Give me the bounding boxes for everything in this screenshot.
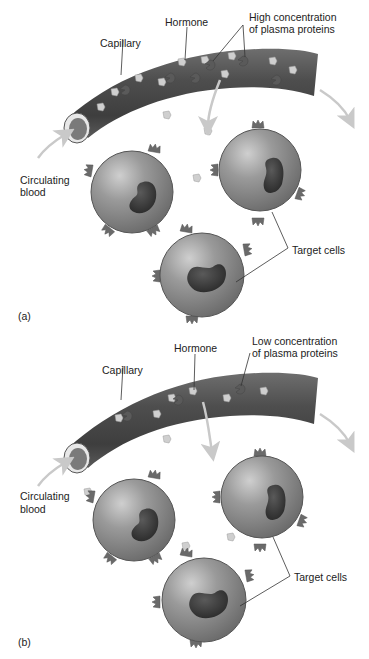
capillary-tube: [68, 373, 318, 468]
panel-b: [38, 353, 350, 648]
panel-label-b: (b): [18, 636, 31, 648]
capillary-label: Capillary: [102, 364, 143, 376]
hormone-label: Hormone: [165, 16, 208, 28]
circulating-blood-label-line1: Circulating: [20, 490, 70, 502]
target-cell: [210, 120, 307, 226]
plasma-proteins-label-line1: Low concentration: [252, 335, 337, 347]
target-cells-label: Target cells: [294, 571, 347, 583]
hormone-label: Hormone: [174, 342, 217, 354]
target-cell: [212, 448, 309, 552]
target-cells-label: Target cells: [292, 244, 345, 256]
target-cell: [152, 223, 253, 324]
circulating-blood-label-line2: blood: [20, 503, 46, 515]
plasma-proteins-label-line2: of plasma proteins: [249, 23, 335, 35]
panel-label-a: (a): [18, 310, 31, 322]
target-cell: [83, 143, 173, 238]
target-cell: [85, 469, 175, 566]
capillary-label: Capillary: [100, 37, 141, 49]
target-cell: [152, 547, 255, 648]
circulating-blood-label-line1: Circulating: [20, 174, 70, 186]
circulating-blood-label-line2: blood: [20, 186, 46, 198]
plasma-proteins-label-line1: High concentration: [249, 11, 337, 23]
diagram-canvas: [0, 0, 369, 659]
capillary-tube: [68, 49, 318, 138]
plasma-proteins-label-line2: of plasma proteins: [252, 347, 338, 359]
panel-a: [38, 25, 350, 324]
